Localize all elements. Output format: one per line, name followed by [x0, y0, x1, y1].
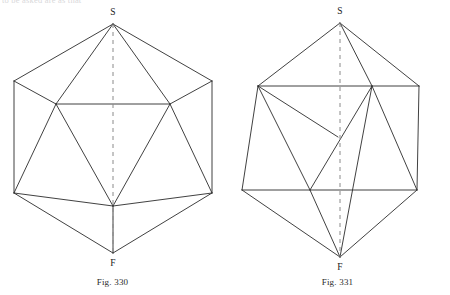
- edge-lower-outer-left-base: [14, 193, 113, 253]
- edge-apex-upper-mid-right: [340, 23, 372, 86]
- edge-apex-upper-outer-right: [340, 23, 419, 86]
- edge-upper-outer-left-inner-left: [14, 81, 56, 104]
- figure-331: S F: [225, 0, 450, 295]
- edge-upper-mid-right-base: [340, 86, 372, 257]
- fig331-edges: [242, 23, 419, 257]
- edge-right-side: [417, 86, 419, 190]
- edge-apex-upper-outer-left: [258, 23, 340, 86]
- edge-inner-left-lower-outer-left: [14, 104, 56, 193]
- edge-left-side: [242, 86, 258, 190]
- edge-apex-upper-outer-left: [14, 24, 113, 81]
- edge-lower-outer-right-base: [340, 190, 417, 257]
- edge-upper-outer-right-inner-right: [170, 81, 212, 104]
- edge-inner-left-lower-center: [56, 104, 113, 206]
- edge-apex-upper-outer-right: [113, 24, 212, 81]
- edge-upper-mid-right-lower-outer-right: [372, 86, 417, 190]
- edge-inner-right-lower-center: [113, 104, 170, 206]
- vertex-label-s: S: [110, 7, 115, 17]
- vertex-label-s: S: [337, 6, 342, 16]
- edge-apex-upper-inner-right: [113, 24, 170, 104]
- edge-lower-outer-right-center: [113, 193, 212, 206]
- figure-caption-330: Fig. 330: [0, 277, 225, 287]
- figure-330-drawing: S F: [0, 0, 225, 295]
- vertex-label-f: F: [337, 262, 342, 272]
- figure-331-drawing: S F: [225, 0, 450, 295]
- edge-apex-upper-inner-left: [56, 24, 113, 104]
- figure-page: to be asked are as that: [0, 0, 450, 295]
- edge-inner-right-lower-outer-right: [170, 104, 212, 193]
- edge-upper-outer-left-lower-mid-left: [258, 86, 310, 190]
- figure-330: S F: [0, 0, 225, 295]
- edge-lower-outer-right-base: [113, 193, 212, 253]
- vertex-label-f: F: [110, 258, 115, 268]
- edge-upper-outer-left-center: [258, 86, 338, 137]
- edge-lower-outer-left-center: [14, 193, 113, 206]
- figure-caption-331: Fig. 331: [225, 277, 450, 287]
